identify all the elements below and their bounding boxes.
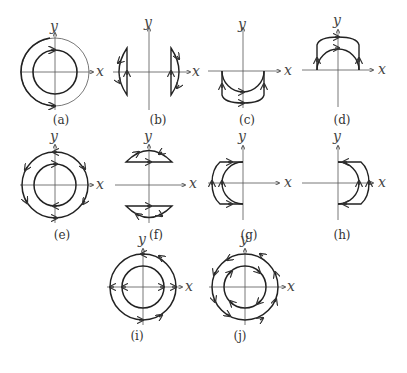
panel-f: y x (f) [105,125,205,240]
y-axis-label: y [144,14,152,30]
caption-e: (e) [42,228,82,242]
x-axis-label: x [287,278,295,294]
x-axis-label: x [378,174,386,190]
y-axis-label: y [238,16,246,32]
caption-i: (i) [117,329,157,343]
y-axis-label: y [50,18,58,34]
caption-h: (h) [322,228,362,242]
diagram-j [195,238,305,373]
x-axis-label: x [189,175,197,191]
panel-h: y x (h) [300,125,407,240]
x-axis-label: x [192,63,200,79]
panel-d: y x (d) [300,0,407,125]
diagram-i [95,238,195,373]
y-axis-label: y [333,128,341,144]
x-axis-label: x [185,278,193,294]
y-axis-label: y [144,128,152,144]
x-axis-label: x [284,62,292,78]
x-axis-label: x [378,61,386,77]
panel-g: y x (g) [200,125,300,240]
x-axis-label: x [96,176,104,192]
panel-b: y x (b) [105,0,205,125]
y-axis-label: y [333,12,341,28]
caption-j: (j) [220,329,260,343]
y-axis-label: y [240,231,248,247]
panel-a: y x (a) [0,0,100,125]
diagram-h [300,125,407,240]
panel-j: y x (j) [195,238,305,373]
diagram-d [300,0,407,125]
x-axis-label: x [96,63,104,79]
panel-i: y x (i) [95,238,195,373]
panel-e: y x (e) [0,125,100,240]
x-axis-label: x [284,174,292,190]
panel-c: y x (c) [200,0,300,125]
diagram-b [105,0,205,125]
y-axis-label: y [238,128,246,144]
y-axis-label: y [138,231,146,247]
y-axis-label: y [50,128,58,144]
